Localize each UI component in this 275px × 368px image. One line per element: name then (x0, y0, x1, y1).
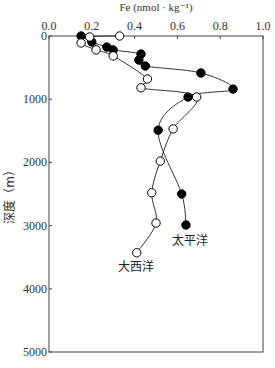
y-tick-label: 2000 (23, 155, 47, 169)
series-line (81, 36, 198, 253)
y-axis-ticks: 010002000300040005000 (23, 29, 52, 359)
atlantic-point (92, 46, 100, 54)
y-tick-label: 4000 (23, 282, 47, 296)
x-tick-label: 0.2 (84, 19, 99, 33)
x-tick-label: 1.0 (256, 19, 271, 33)
atlantic-point (85, 33, 93, 41)
atlantic-point (115, 32, 123, 40)
x-tick-label: 0.6 (170, 19, 185, 33)
atlantic-point (77, 39, 85, 47)
atlantic-point (137, 84, 145, 92)
y-tick-label: 3000 (23, 219, 47, 233)
pacific-point (141, 62, 149, 70)
atlantic-point (169, 125, 177, 133)
pacific-label: 太平洋 (172, 233, 208, 248)
pacific-point (154, 126, 162, 134)
y-tick-label: 1000 (23, 92, 47, 106)
y-axis-title: 深度（m） (2, 164, 17, 224)
y-tick-label: 5000 (23, 345, 47, 359)
x-axis-title: Fe (nmol · kg⁻¹) (119, 1, 192, 14)
atlantic-point (192, 93, 200, 101)
atlantic-point (152, 219, 160, 227)
atlantic-point (143, 75, 151, 83)
pacific-point (229, 85, 237, 93)
pacific-point (177, 190, 185, 198)
pacific-point (197, 69, 205, 77)
y-tick-label: 0 (41, 29, 47, 43)
atlantic-point (109, 52, 117, 60)
data-series (77, 32, 237, 257)
atlantic-label: 大西洋 (118, 259, 154, 274)
atlantic-point (148, 189, 156, 197)
fe-depth-profile-chart: Fe (nmol · kg⁻¹) 0.00.20.40.60.81.0 0100… (0, 0, 275, 368)
pacific-point (182, 221, 190, 229)
x-tick-label: 0.8 (213, 19, 228, 33)
atlantic-point (156, 157, 164, 165)
atlantic-point (133, 249, 141, 257)
x-tick-label: 0.4 (127, 19, 142, 33)
